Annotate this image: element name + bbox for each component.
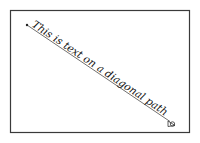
diagram-canvas: This is text on a diagonal path (0, 0, 200, 143)
path-start-dot-icon (26, 24, 28, 26)
